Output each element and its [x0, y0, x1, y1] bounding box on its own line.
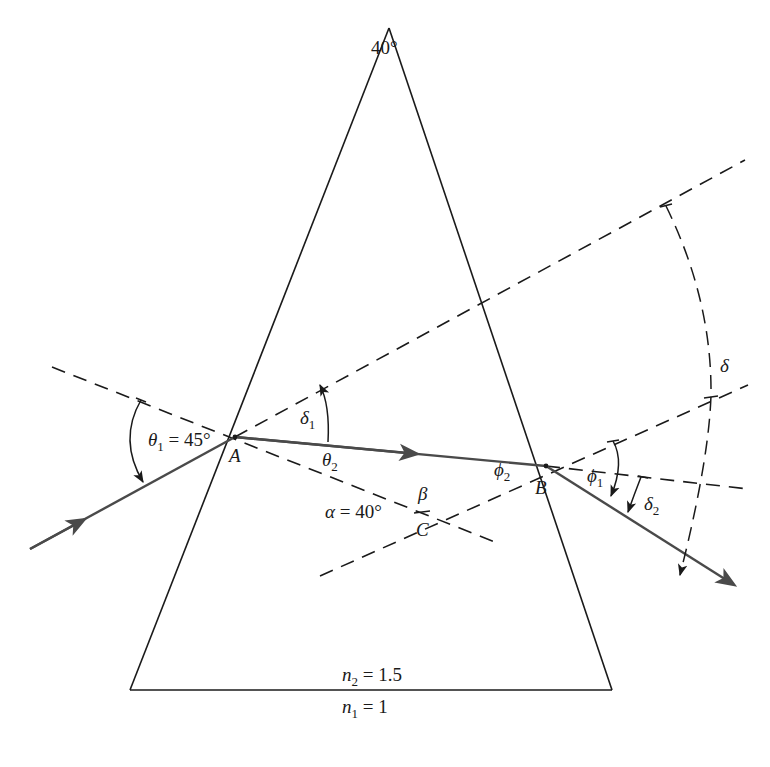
incident-ray-arrow — [30, 523, 78, 549]
theta2-subscript: 2 — [331, 459, 338, 474]
n2-symbol: n — [342, 664, 352, 685]
alpha-label: α = 40° — [325, 502, 382, 521]
theta1-subscript: 1 — [157, 439, 164, 454]
phi2-subscript: 2 — [504, 469, 511, 484]
diagram-canvas — [0, 0, 770, 767]
phi1-arc-tick — [607, 440, 619, 442]
delta2-arc-tick — [638, 476, 648, 478]
alpha-symbol: α — [325, 501, 335, 522]
beta-label: β — [418, 484, 427, 503]
delta2-symbol: δ — [644, 493, 653, 514]
point-A-label: A — [229, 446, 241, 465]
point-A-dot — [233, 435, 238, 440]
emergent-ray — [546, 466, 728, 581]
prism-outline — [130, 28, 612, 690]
alpha-value: = 40° — [340, 501, 382, 522]
delta2-label: δ2 — [644, 494, 659, 513]
delta1-label: δ1 — [300, 408, 315, 427]
delta2-subscript: 2 — [653, 503, 660, 518]
theta1-symbol: θ — [148, 429, 157, 450]
incident-extension-line — [235, 160, 745, 437]
delta1-arc — [320, 385, 328, 442]
prism-diagram: 40° θ1 = 45° A δ1 θ2 ϕ2 β α = 40° C B ϕ1… — [0, 0, 770, 767]
theta1-value: = 45° — [169, 429, 211, 450]
phi2-label: ϕ2 — [494, 460, 510, 479]
phi2-symbol: ϕ — [494, 459, 504, 480]
outside-index-label: n1 = 1 — [342, 697, 388, 716]
prism-right-face — [389, 28, 612, 690]
inside-index-label: n2 = 1.5 — [342, 665, 402, 684]
theta2-symbol: θ — [322, 449, 331, 470]
n1-symbol: n — [342, 696, 352, 717]
point-B-dot — [544, 464, 549, 469]
delta1-subscript: 1 — [309, 417, 316, 432]
point-C-label: C — [416, 520, 429, 539]
delta2-arc — [628, 477, 641, 512]
phi1-symbol: ϕ — [587, 465, 597, 486]
delta-arc — [660, 204, 718, 575]
prism-left-face — [130, 28, 389, 690]
phi1-arc — [611, 441, 619, 496]
n2-value: = 1.5 — [363, 664, 402, 685]
point-B-label: B — [535, 478, 547, 497]
phi1-subscript: 1 — [597, 475, 604, 490]
normal-at-B — [320, 385, 748, 576]
phi1-label: ϕ1 — [587, 466, 603, 485]
theta2-label: θ2 — [322, 450, 338, 469]
theta1-label: θ1 = 45° — [148, 430, 211, 449]
n2-subscript: 2 — [352, 674, 359, 689]
theta1-arc — [130, 400, 143, 482]
n1-value: = 1 — [363, 696, 388, 717]
beta-symbol: β — [418, 483, 427, 504]
delta-label: δ — [720, 356, 729, 375]
delta1-symbol: δ — [300, 407, 309, 428]
n1-subscript: 1 — [352, 706, 359, 721]
apex-angle-label: 40° — [371, 38, 398, 57]
